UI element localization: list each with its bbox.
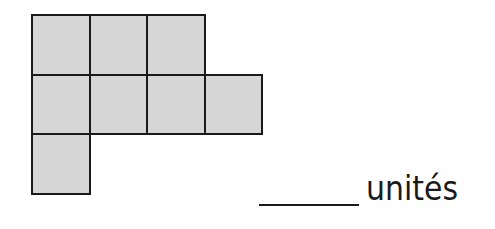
unit-square [31,74,91,136]
unit-square [31,133,91,195]
unit-square [89,74,149,136]
unit-square [89,14,149,76]
unit-square [31,14,91,76]
answer-blank-line [259,204,359,206]
unit-square [146,74,206,136]
unit-square [204,74,264,136]
unit-square [146,14,206,76]
unit-label: unités [366,168,458,208]
